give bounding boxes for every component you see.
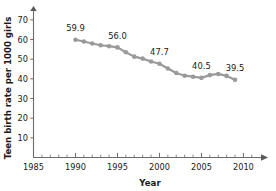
false [124, 50, 129, 55]
x-axis-arrow-icon [261, 154, 268, 161]
false [174, 71, 179, 76]
x-tick-label: 1990 [65, 162, 86, 172]
teen-birth-rate-line-chart: 10203040506070 198519901995200020052010 … [0, 0, 276, 191]
y-tick-label: 30 [18, 94, 28, 104]
false [73, 37, 78, 42]
false [132, 54, 137, 59]
y-axis-title: Teen birth rate per 1000 girls [3, 17, 13, 160]
y-tick-label: 50 [18, 54, 28, 64]
x-tick-label: 2000 [149, 162, 170, 172]
x-tick-label: 2005 [191, 162, 212, 172]
false [191, 74, 196, 79]
data-point-label: 47.7 [150, 47, 169, 57]
false [107, 44, 112, 49]
data-point-label: 39.5 [226, 63, 245, 73]
false [216, 72, 221, 77]
data-point-label: 59.9 [66, 23, 85, 33]
false [233, 78, 238, 83]
false [140, 56, 145, 61]
false [199, 76, 204, 81]
x-tick-label: 1995 [107, 162, 128, 172]
false [182, 73, 187, 78]
y-axis-arrow-icon [30, 6, 37, 11]
chart-canvas: 10203040506070 198519901995200020052010 … [0, 0, 276, 191]
false [224, 74, 229, 79]
false [208, 73, 213, 78]
x-tick-label: 1985 [23, 162, 44, 172]
data-point-label: 40.5 [192, 61, 211, 71]
false [149, 59, 154, 64]
x-tick-label: 2010 [233, 162, 254, 172]
y-tick-label: 70 [18, 15, 28, 25]
false [157, 61, 162, 66]
y-tick-label: 10 [18, 133, 28, 143]
data-series [73, 37, 237, 82]
y-tick-label: 60 [18, 35, 28, 45]
x-axis-title: Year [138, 178, 161, 188]
false [115, 45, 120, 50]
false [90, 41, 95, 46]
data-point-label: 56.0 [108, 31, 127, 41]
y-axis: 10203040506070 [18, 6, 37, 158]
data-point-labels: 59.956.047.740.539.5 [66, 23, 244, 73]
y-tick-label: 20 [18, 113, 28, 123]
false [166, 66, 171, 71]
false [98, 43, 103, 48]
y-tick-label: 40 [18, 74, 28, 84]
x-axis: 198519901995200020052010 [23, 153, 268, 172]
false [82, 39, 87, 44]
